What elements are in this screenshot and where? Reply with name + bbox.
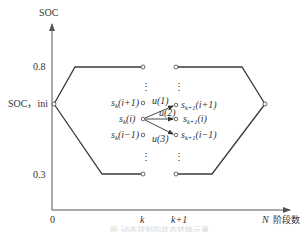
node-final bbox=[263, 102, 267, 106]
upper-bound-right bbox=[176, 67, 265, 104]
node-k-lower-bound bbox=[141, 172, 145, 176]
label-sk-i-plus-1: sk(i+1) bbox=[111, 97, 140, 110]
control-label-u3: u(3) bbox=[152, 133, 169, 145]
node-k1-lower-bound bbox=[174, 172, 178, 176]
node-sk-i-minus-1 bbox=[141, 133, 145, 137]
y-tick-upper: 0.8 bbox=[33, 61, 46, 72]
node-sk1-i-minus-1 bbox=[174, 133, 178, 137]
control-label-u1: u(1) bbox=[152, 95, 169, 107]
figure-caption: 图 动态规划的状态转移示意 bbox=[110, 225, 209, 232]
x-tick-k: k bbox=[140, 214, 145, 225]
x-tick-k-plus-1: k+1 bbox=[171, 214, 187, 225]
control-label-u2: u(2) bbox=[159, 107, 176, 119]
label-sk1-i-plus-1: sk+1(i+1) bbox=[181, 99, 217, 111]
ellipsis-k1-top: ⋮ bbox=[174, 81, 184, 92]
y-tick-lower: 0.3 bbox=[33, 169, 46, 180]
transition-arrow-u3 bbox=[145, 120, 173, 134]
node-initial bbox=[52, 102, 56, 106]
y-axis-label: SOC bbox=[39, 7, 59, 18]
x-tick-origin: 0 bbox=[50, 214, 55, 225]
label-sk-i-minus-1: sk(i−1) bbox=[111, 129, 140, 142]
node-sk-i bbox=[141, 117, 145, 121]
node-k-upper-bound bbox=[141, 65, 145, 69]
node-k1-upper-bound bbox=[174, 65, 178, 69]
soc-dynamic-programming-diagram: SOC 0.8 SOC，ini 0.3 0 k k+1 N 阶段数 ⋮ ⋮ ⋮ … bbox=[0, 0, 308, 232]
ellipsis-k1-bottom: ⋮ bbox=[174, 151, 184, 162]
ellipsis-k-bottom: ⋮ bbox=[141, 151, 151, 162]
ellipsis-k-top: ⋮ bbox=[141, 81, 151, 92]
x-tick-N: N bbox=[261, 214, 270, 225]
label-sk1-i-minus-1: sk+1(i−1) bbox=[181, 129, 217, 141]
y-tick-initial: SOC，ini bbox=[8, 98, 48, 109]
label-sk1-i: sk+1(i) bbox=[183, 113, 208, 125]
node-sk-i-plus-1 bbox=[141, 101, 145, 105]
x-axis-label: 阶段数 bbox=[273, 214, 300, 225]
label-sk-i: sk(i) bbox=[119, 113, 136, 126]
